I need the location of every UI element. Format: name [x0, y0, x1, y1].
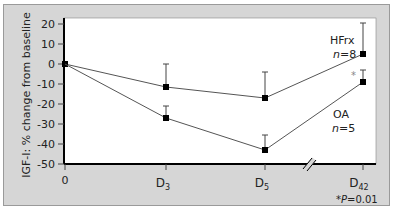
x-tick-label-d5: D5 [255, 176, 269, 192]
y-axis-label: IGF-I: % change from baseline [20, 12, 33, 178]
y-tick-label: 10 [41, 38, 55, 51]
x-tick-label-0: 0 [62, 174, 69, 187]
y-tick-labels: 20 10 0 -10 -20 -30 -40 -50 [37, 18, 55, 171]
x-tick-main: D [349, 176, 358, 190]
x-tick-label-d42: D42 [349, 176, 368, 192]
x-tick-labels: 0 D3 D5 D42 [62, 174, 369, 192]
footnote-value: =0.01 [347, 194, 378, 205]
data-marker [163, 115, 169, 121]
y-tick-label: -30 [37, 118, 55, 131]
y-tick-label: 0 [48, 58, 55, 71]
data-marker [360, 51, 366, 57]
x-tick-sub: 5 [264, 183, 269, 192]
x-tick-sub: 3 [165, 183, 170, 192]
x-tick-main: D [156, 176, 165, 190]
n-italic: n [333, 48, 340, 61]
series-label-oa: OA [333, 108, 349, 121]
x-tick-label-d3: D3 [156, 176, 170, 192]
series-label-hfrx: HFrx [330, 34, 355, 47]
x-tick-sub: 42 [359, 183, 369, 192]
series-n-oa: n=5 [332, 122, 355, 135]
significance-asterisk: * [351, 70, 356, 81]
series-n-hfrx: n=8 [333, 48, 356, 61]
y-tick-label: -20 [37, 98, 55, 111]
x-tick-main: D [255, 176, 264, 190]
n-value: =8 [340, 48, 356, 61]
data-marker [360, 79, 366, 85]
chart-svg: 20 10 0 -10 -20 -30 -40 -50 IGF-I: % cha… [0, 0, 395, 210]
y-tick-label: -10 [37, 78, 55, 91]
data-marker [163, 84, 169, 90]
n-value: =5 [339, 122, 355, 135]
y-tick-label: 20 [41, 18, 55, 31]
n-italic: n [332, 122, 339, 135]
footnote: *P=0.01 [336, 194, 378, 205]
y-tick-label: -50 [37, 158, 55, 171]
y-tick-label: -40 [37, 138, 55, 151]
data-marker [262, 147, 268, 153]
data-marker [262, 95, 268, 101]
